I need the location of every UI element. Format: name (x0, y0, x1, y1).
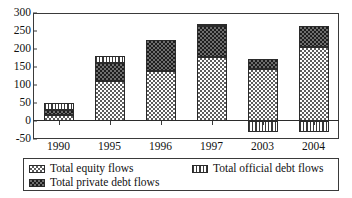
x-tick-mark (161, 121, 162, 125)
y-tick-label: 300 (14, 7, 31, 19)
legend-item[interactable]: Total equity flows (29, 163, 134, 175)
bar-segment-official-debt (44, 103, 74, 110)
y-tick-label: 50 (20, 97, 32, 109)
x-tick-label: 2004 (302, 141, 325, 153)
bar-stack-positive (95, 56, 125, 121)
y-tick-mark (33, 85, 37, 86)
chart-legend: Total equity flowsTotal official debt fl… (23, 158, 339, 191)
y-tick-mark (33, 13, 37, 14)
bar-segment-equity (299, 47, 329, 121)
bar-segment-equity (248, 69, 278, 121)
x-tick-label: 1996 (149, 141, 172, 153)
bar-stack-positive (146, 40, 176, 121)
y-tick-label: 0 (25, 115, 31, 127)
x-tick-mark (263, 121, 264, 125)
bar-segment-official-debt (95, 56, 125, 64)
x-tick-mark (110, 121, 111, 125)
y-tick-label: 150 (14, 61, 31, 73)
x-tick-label: 1997 (200, 141, 223, 153)
y-tick-mark (33, 31, 37, 32)
legend-swatch-icon (192, 165, 208, 173)
y-tick-label: 200 (14, 43, 31, 55)
legend-label: Total official debt flows (213, 163, 323, 175)
bar-segment-private-debt (95, 63, 125, 81)
chart-figure: 300250200150100500-50 199019951996199720… (0, 0, 352, 198)
bar-stack-positive (44, 103, 74, 121)
legend-label: Total equity flows (50, 163, 134, 175)
x-tick-mark (314, 121, 315, 125)
x-axis: 199019951996199720032004 (33, 139, 339, 155)
bar-segment-private-debt (197, 26, 227, 57)
y-tick-label: -50 (16, 133, 31, 145)
x-tick-label: 2003 (251, 141, 274, 153)
x-tick-mark (59, 121, 60, 125)
bar-stack-positive (197, 24, 227, 121)
x-tick-mark (212, 121, 213, 125)
bar-segment-equity (95, 81, 125, 121)
legend-item[interactable]: Total private debt flows (29, 177, 159, 189)
legend-swatch-icon (29, 179, 45, 187)
x-tick-label: 1995 (98, 141, 121, 153)
bar-segment-private-debt (146, 40, 176, 71)
y-tick-mark (33, 103, 37, 104)
y-tick-mark (33, 121, 37, 122)
y-tick-label: 250 (14, 25, 31, 37)
legend-item[interactable]: Total official debt flows (192, 163, 323, 175)
x-tick-label: 1990 (47, 141, 70, 153)
y-tick-label: 100 (14, 79, 31, 91)
legend-label: Total private debt flows (50, 177, 159, 189)
bar-segment-equity (197, 57, 227, 121)
bar-segment-private-debt (248, 59, 278, 69)
y-tick-mark (33, 67, 37, 68)
legend-swatch-icon (29, 165, 45, 173)
y-tick-mark (33, 139, 37, 140)
bar-stack-positive (299, 26, 329, 121)
bar-segment-equity (146, 71, 176, 121)
bar-stack-positive (248, 59, 278, 121)
y-tick-mark (33, 49, 37, 50)
bar-segment-private-debt (299, 26, 329, 47)
